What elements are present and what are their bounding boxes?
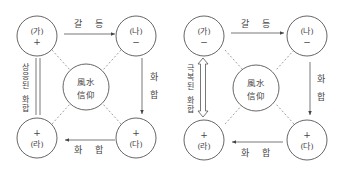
node-label: (다) [300,142,313,151]
edge-label: 화 합 [74,145,108,155]
edge-label: 극 [187,64,194,73]
node-ga: (가) + [17,16,57,56]
left-diagram: (가) + (나) − + (다) + (라) 風水 信仰 갈 등 [17,16,163,158]
node-label: (다) [129,140,142,149]
edge-label: 합 [22,104,30,113]
edge-label: 갈 등 [241,19,275,29]
edge-top: 갈 등 [64,19,115,34]
edge-label: 화 [187,96,195,105]
edge-bottom: 화 합 [65,140,115,155]
edge-right: 화 합 [310,62,330,115]
edge-left: 극 복 된 화 합 [187,58,209,117]
edge-label: 합 [317,92,330,102]
edge-label: 응 [22,72,29,81]
node-ga: (가) − [184,16,224,56]
node-sign: + [33,37,41,47]
node-label: (가) [197,27,210,36]
node-label: (라) [197,142,210,151]
center-node: 風水 信仰 [233,65,279,111]
edge-label: 된 [187,81,194,91]
node-sign: − [132,37,140,47]
node-sign: − [200,37,208,47]
node-label: (가) [30,27,43,36]
center-label: 風水 [247,78,265,88]
node-sign: + [303,130,311,140]
center-label: 信仰 [247,91,265,101]
right-diagram: (가) − (나) − + (다) + (라) 風水 信仰 갈 등 [184,16,330,160]
edge-label: 화 [317,74,330,84]
node-ra: + (라) [17,118,57,158]
node-label: (나) [300,27,313,36]
double-arrow-icon [198,58,208,117]
edge-label: 화 [22,95,30,104]
edge-label: 합 [187,105,195,114]
node-label: (라) [30,140,43,149]
node-na: (나) − [287,16,327,56]
edge-label: 복 [187,73,194,82]
node-sign: − [303,37,311,47]
diagram-canvas: (가) + (나) − + (다) + (라) 風水 信仰 갈 등 [0,0,346,172]
node-ra: + (라) [184,120,224,160]
edge-label: 합 [150,90,163,100]
edge-bottom: 화 합 [232,142,283,158]
edge-label: 화 [150,72,163,82]
edge-label: 화 합 [241,148,275,158]
center-label: 風水 [77,77,95,87]
node-da: + (다) [116,118,156,158]
node-da: + (다) [287,120,327,160]
node-sign: + [132,128,140,138]
node-sign: + [200,130,208,140]
node-sign: + [33,128,41,138]
center-node: 風水 信仰 [63,64,109,110]
edge-top: 갈 등 [231,19,284,33]
node-na: (나) − [116,16,156,56]
edge-left: 상 응 된 화 합 [22,58,41,115]
edge-label: 상 [22,62,30,72]
edge-label: 된 [22,80,29,90]
edge-right: 화 합 [142,58,163,114]
center-label: 信仰 [77,90,95,100]
edge-label: 갈 등 [74,19,108,29]
node-label: (나) [129,27,142,36]
